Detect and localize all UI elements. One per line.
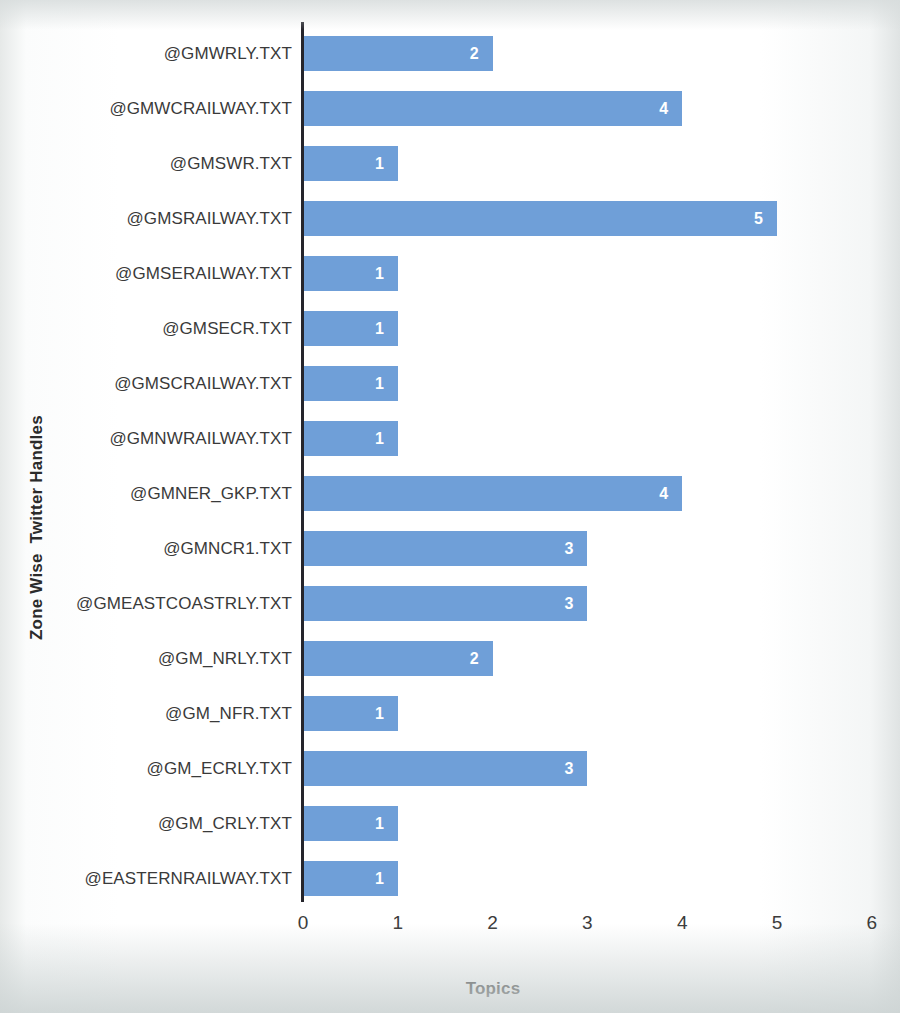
- x-axis-title: Topics: [303, 979, 683, 999]
- bar-track: 1: [303, 301, 900, 356]
- x-tick-label: 4: [662, 912, 702, 934]
- bar-row: @EASTERNRAILWAY.TXT1: [0, 851, 900, 906]
- x-tick-label: 0: [283, 912, 323, 934]
- category-label: @GM_NFR.TXT: [165, 686, 292, 741]
- bar-value-label: 3: [564, 586, 573, 621]
- bar: 1: [303, 696, 398, 731]
- bar-track: 1: [303, 411, 900, 466]
- bar-track: 1: [303, 246, 900, 301]
- x-axis-ticks: 0123456: [303, 912, 900, 942]
- bar: 1: [303, 311, 398, 346]
- bar: 1: [303, 861, 398, 896]
- bar-track: 1: [303, 851, 900, 906]
- category-label: @GM_ECRLY.TXT: [147, 741, 292, 796]
- bar: 1: [303, 806, 398, 841]
- category-label: @GMSERAILWAY.TXT: [115, 246, 292, 301]
- chart-page: Zone Wise Twitter Handles @GMWRLY.TXT2@G…: [0, 0, 900, 1013]
- category-label: @GMEASTCOASTRLY.TXT: [76, 576, 292, 631]
- bar-value-label: 3: [564, 751, 573, 786]
- bar-value-label: 1: [375, 696, 384, 731]
- category-label: @GMNER_GKP.TXT: [130, 466, 292, 521]
- bar-value-label: 2: [470, 36, 479, 71]
- bar-track: 3: [303, 521, 900, 576]
- category-label: @GMSWR.TXT: [170, 136, 292, 191]
- bar: 1: [303, 366, 398, 401]
- x-tick-label: 3: [567, 912, 607, 934]
- bar-row: @GM_NFR.TXT1: [0, 686, 900, 741]
- bar-row: @GMNCR1.TXT3: [0, 521, 900, 576]
- x-tick-label: 2: [473, 912, 513, 934]
- bar-row: @GM_CRLY.TXT1: [0, 796, 900, 851]
- category-label: @GM_CRLY.TXT: [158, 796, 292, 851]
- bar-track: 1: [303, 136, 900, 191]
- bar-row: @GMNWRAILWAY.TXT1: [0, 411, 900, 466]
- category-label: @GMSECR.TXT: [162, 301, 292, 356]
- category-label: @GM_NRLY.TXT: [158, 631, 292, 686]
- bar-row: @GMSECR.TXT1: [0, 301, 900, 356]
- bar: 2: [303, 36, 493, 71]
- bar-track: 4: [303, 466, 900, 521]
- x-tick-label: 5: [757, 912, 797, 934]
- bar-row: @GMNER_GKP.TXT4: [0, 466, 900, 521]
- bar-track: 5: [303, 191, 900, 246]
- bar-row: @GM_NRLY.TXT2: [0, 631, 900, 686]
- bar-track: 1: [303, 686, 900, 741]
- bar: 4: [303, 91, 682, 126]
- bar: 1: [303, 256, 398, 291]
- bar-value-label: 1: [375, 311, 384, 346]
- bar-row: @GMSRAILWAY.TXT5: [0, 191, 900, 246]
- category-label: @GMSRAILWAY.TXT: [127, 191, 292, 246]
- category-label: @GMNWRAILWAY.TXT: [109, 411, 292, 466]
- bar-chart: Zone Wise Twitter Handles @GMWRLY.TXT2@G…: [0, 0, 900, 1013]
- bar-track: 2: [303, 631, 900, 686]
- bar-row: @GM_ECRLY.TXT3: [0, 741, 900, 796]
- bar-track: 3: [303, 576, 900, 631]
- bar-value-label: 1: [375, 366, 384, 401]
- bar: 5: [303, 201, 777, 236]
- bar: 3: [303, 531, 587, 566]
- bar-row: @GMWRLY.TXT2: [0, 26, 900, 81]
- bar: 3: [303, 751, 587, 786]
- bar-value-label: 1: [375, 806, 384, 841]
- bar: 3: [303, 586, 587, 621]
- bar-value-label: 3: [564, 531, 573, 566]
- chart-rows: @GMWRLY.TXT2@GMWCRAILWAY.TXT4@GMSWR.TXT1…: [0, 26, 900, 906]
- bar-track: 2: [303, 26, 900, 81]
- bar-value-label: 4: [659, 476, 668, 511]
- category-label: @GMSCRAILWAY.TXT: [114, 356, 292, 411]
- bar: 1: [303, 146, 398, 181]
- bar-value-label: 4: [659, 91, 668, 126]
- bar-row: @GMSWR.TXT1: [0, 136, 900, 191]
- bar-track: 4: [303, 81, 900, 136]
- x-tick-label: 1: [378, 912, 418, 934]
- bar-track: 1: [303, 796, 900, 851]
- bar: 1: [303, 421, 398, 456]
- bar-track: 1: [303, 356, 900, 411]
- category-label: @EASTERNRAILWAY.TXT: [85, 851, 292, 906]
- bar-row: @GMSERAILWAY.TXT1: [0, 246, 900, 301]
- bar-value-label: 5: [754, 201, 763, 236]
- bar-row: @GMEASTCOASTRLY.TXT3: [0, 576, 900, 631]
- bar-value-label: 1: [375, 421, 384, 456]
- bar-value-label: 1: [375, 861, 384, 896]
- bar-track: 3: [303, 741, 900, 796]
- bar-row: @GMSCRAILWAY.TXT1: [0, 356, 900, 411]
- bar: 2: [303, 641, 493, 676]
- bar-value-label: 1: [375, 256, 384, 291]
- bar: 4: [303, 476, 682, 511]
- category-label: @GMWRLY.TXT: [164, 26, 292, 81]
- bar-value-label: 1: [375, 146, 384, 181]
- y-axis-line: [301, 22, 304, 902]
- bar-value-label: 2: [470, 641, 479, 676]
- category-label: @GMWCRAILWAY.TXT: [109, 81, 292, 136]
- x-tick-label: 6: [852, 912, 892, 934]
- bar-row: @GMWCRAILWAY.TXT4: [0, 81, 900, 136]
- category-label: @GMNCR1.TXT: [163, 521, 292, 576]
